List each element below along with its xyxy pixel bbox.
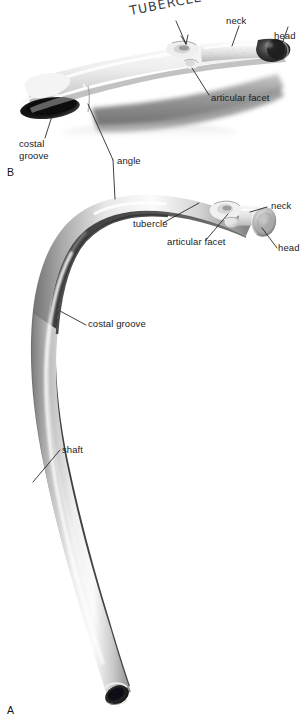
- label-a-shaft: shaft: [62, 444, 83, 455]
- panel-letter-b: B: [7, 166, 14, 178]
- leader-angle-to-a: [113, 160, 115, 199]
- leader-a-costal-groove: [60, 311, 86, 325]
- leader-b-articular-facet: [192, 68, 209, 95]
- specimen-b-articular-facet: [184, 59, 199, 69]
- label-b-neck: neck: [226, 15, 246, 26]
- label-b-articular-facet: articular facet: [211, 92, 270, 103]
- label-a-neck: neck: [271, 200, 291, 211]
- label-b-costal-groove: costal groove: [19, 138, 49, 161]
- label-b-head: head: [274, 30, 296, 41]
- label-a-costal-groove: costal groove: [88, 318, 146, 329]
- label-a-articular-facet: articular facet: [167, 236, 226, 247]
- label-a-tubercle: tubercle: [133, 218, 168, 229]
- leader-handwritten-tubercle: [176, 21, 186, 44]
- label-a-head: head: [278, 242, 300, 253]
- specimen-b-superior-view: [19, 39, 290, 142]
- panel-letter-a: A: [7, 704, 14, 716]
- specimen-b-head: [256, 39, 290, 62]
- label-angle: angle: [117, 155, 141, 166]
- leader-b-costal-groove: [45, 116, 52, 138]
- rib-anatomy-figure: TUBERCLE neck head articular facet costa…: [0, 0, 300, 725]
- specimen-a-articular-facet: [225, 217, 240, 228]
- figure-illustration: [0, 0, 300, 725]
